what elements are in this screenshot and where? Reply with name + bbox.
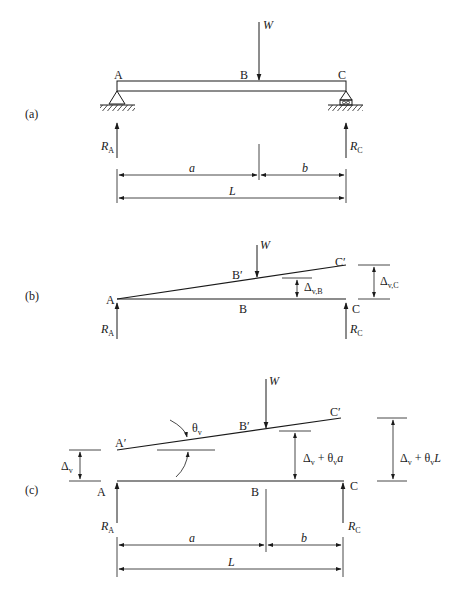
reaction-a-label: RA	[100, 139, 114, 155]
deflection-c-label: Δv,C	[380, 274, 399, 290]
panel-c: (c) W A′ B′ C′ A B C θv Δv Δv + θva	[25, 374, 441, 577]
load-label: W	[269, 374, 280, 388]
dim-a-label: a	[189, 531, 195, 545]
dim-l-label: L	[227, 555, 235, 569]
panel-label-a: (a)	[25, 107, 38, 121]
point-c-prime-label: C′	[335, 255, 346, 269]
dim-b-label: b	[302, 161, 308, 175]
displaced-beam	[117, 418, 341, 450]
deflection-a-label: Δv	[61, 459, 73, 475]
point-c-label: C	[350, 479, 358, 493]
panel-a: (a) W A B C RA RC	[25, 18, 363, 203]
dim-l-label: L	[228, 184, 236, 198]
deflection-c-label: Δv + θvL	[400, 451, 441, 467]
point-a-prime-label: A′	[115, 436, 127, 450]
load-label: W	[260, 238, 271, 252]
point-a-label: A	[114, 68, 123, 82]
point-c-label: C	[352, 302, 360, 316]
dim-a-label: a	[189, 161, 195, 175]
point-b-prime-label: B′	[232, 268, 243, 282]
beam	[117, 81, 346, 91]
point-c-prime-label: C′	[330, 405, 341, 419]
beam-deflection-diagram: (a) W A B C RA RC	[0, 0, 456, 593]
rotation-label: θv	[192, 421, 202, 437]
point-b-label: B	[251, 485, 259, 499]
deflection-b-label: Δv + θva	[303, 451, 343, 467]
point-a-label: A	[106, 293, 115, 307]
panel-label-b: (b)	[25, 289, 39, 303]
pin-support-icon	[100, 91, 135, 111]
point-b-label: B	[239, 302, 247, 316]
point-b-prime-label: B′	[239, 419, 250, 433]
reaction-a-label: RA	[100, 519, 114, 535]
reaction-c-label: RC	[349, 139, 363, 155]
reaction-c-label: RC	[349, 322, 363, 338]
point-a-label: A	[97, 485, 106, 499]
reaction-a-label: RA	[100, 322, 114, 338]
load-label: W	[263, 18, 274, 32]
roller-support-icon	[328, 91, 363, 111]
reaction-c-label: RC	[347, 519, 361, 535]
rotation-angle-icon	[157, 420, 215, 477]
point-c-label: C	[338, 68, 346, 82]
panel-b: (b) W B′ C′ A B C Δv,B Δv,C RA RC	[25, 238, 399, 339]
dim-b-label: b	[301, 531, 307, 545]
point-b-label: B	[240, 68, 248, 82]
deflection-b-label: Δv,B	[304, 280, 323, 296]
panel-label-c: (c)	[25, 483, 38, 497]
